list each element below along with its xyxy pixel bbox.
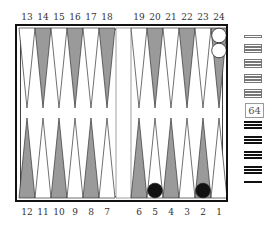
point-12[interactable] xyxy=(19,118,35,198)
black-borne-off-checker xyxy=(244,136,262,138)
white-borne-off-checker xyxy=(244,35,262,38)
point-label-6: 6 xyxy=(131,207,147,217)
point-label-13: 13 xyxy=(19,12,35,22)
point-7[interactable] xyxy=(99,118,115,198)
point-label-1: 1 xyxy=(211,207,227,217)
point-13[interactable] xyxy=(19,28,35,108)
point-label-10: 10 xyxy=(51,207,67,217)
black-borne-off-checker xyxy=(244,169,262,171)
point-label-14: 14 xyxy=(35,12,51,22)
board-points[interactable] xyxy=(17,26,226,200)
point-16[interactable] xyxy=(67,28,83,108)
point-label-16: 16 xyxy=(67,12,83,22)
point-label-18: 18 xyxy=(99,12,115,22)
point-18[interactable] xyxy=(99,28,115,108)
black-borne-off-checker xyxy=(244,166,262,168)
point-22[interactable] xyxy=(179,28,195,108)
white-checker[interactable] xyxy=(212,28,226,43)
black-borne-off-checker xyxy=(244,142,262,144)
point-label-20: 20 xyxy=(147,12,163,22)
black-borne-off-checker xyxy=(244,139,262,141)
point-label-7: 7 xyxy=(99,207,115,217)
point-20[interactable] xyxy=(147,28,163,108)
white-borne-off-checker xyxy=(244,65,262,68)
point-17[interactable] xyxy=(83,28,99,108)
doubling-cube[interactable]: 64 xyxy=(245,103,264,118)
point-label-21: 21 xyxy=(163,12,179,22)
black-borne-off-checker xyxy=(244,181,262,183)
bear-off-tray: 64 xyxy=(244,30,264,200)
point-15[interactable] xyxy=(51,28,67,108)
white-borne-off-checker xyxy=(244,50,262,53)
point-label-9: 9 xyxy=(67,207,83,217)
bar[interactable] xyxy=(116,28,131,198)
point-label-8: 8 xyxy=(83,207,99,217)
point-label-11: 11 xyxy=(35,207,51,217)
point-label-5: 5 xyxy=(147,207,163,217)
point-6[interactable] xyxy=(131,118,147,198)
point-label-4: 4 xyxy=(163,207,179,217)
point-4[interactable] xyxy=(163,118,179,198)
backgammon-board xyxy=(15,24,228,202)
point-label-17: 17 xyxy=(83,12,99,22)
point-label-3: 3 xyxy=(179,207,195,217)
point-label-2: 2 xyxy=(195,207,211,217)
point-label-15: 15 xyxy=(51,12,67,22)
point-14[interactable] xyxy=(35,28,51,108)
black-borne-off-checker xyxy=(244,172,262,174)
point-19[interactable] xyxy=(131,28,147,108)
point-11[interactable] xyxy=(35,118,51,198)
point-label-23: 23 xyxy=(195,12,211,22)
black-checker[interactable] xyxy=(196,183,211,198)
white-checker[interactable] xyxy=(212,43,226,58)
point-label-19: 19 xyxy=(131,12,147,22)
white-borne-off-checker xyxy=(244,80,262,83)
point-3[interactable] xyxy=(179,118,195,198)
point-10[interactable] xyxy=(51,118,67,198)
point-21[interactable] xyxy=(163,28,179,108)
point-label-12: 12 xyxy=(19,207,35,217)
black-borne-off-checker xyxy=(244,124,262,126)
black-checker[interactable] xyxy=(148,183,163,198)
white-borne-off-checker xyxy=(244,95,262,98)
black-borne-off-checker xyxy=(244,154,262,156)
point-label-24: 24 xyxy=(211,12,227,22)
black-borne-off-checker xyxy=(244,127,262,129)
point-1[interactable] xyxy=(211,118,226,198)
black-borne-off-checker xyxy=(244,151,262,153)
black-borne-off-checker xyxy=(244,121,262,123)
point-8[interactable] xyxy=(83,118,99,198)
point-9[interactable] xyxy=(67,118,83,198)
point-label-22: 22 xyxy=(179,12,195,22)
black-borne-off-checker xyxy=(244,157,262,159)
point-23[interactable] xyxy=(195,28,211,108)
